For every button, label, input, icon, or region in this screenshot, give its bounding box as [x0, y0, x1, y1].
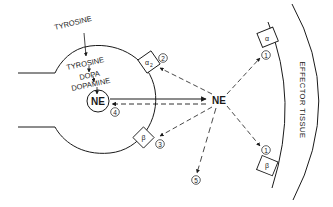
- vesicle-ne-label: NE: [91, 96, 105, 107]
- effector-beta-symbol: β: [265, 162, 269, 170]
- beta-presynaptic-number: 3: [158, 141, 162, 148]
- released-ne-label: NE: [212, 95, 226, 106]
- tyrosine-intracellular-label: TYROSINE: [66, 55, 105, 72]
- alpha2-number: 2: [161, 55, 165, 62]
- diffusion-number: 5: [194, 177, 198, 184]
- effector-alpha-receptor: α: [257, 27, 278, 47]
- effector-beta-number: 1: [264, 147, 268, 154]
- effector-alpha-number: 1: [264, 52, 268, 59]
- beta-presynaptic-receptor: β: [133, 127, 154, 148]
- beta-presynaptic-symbol: β: [141, 134, 145, 142]
- diffusion-arrow: [197, 108, 216, 173]
- tyrosine-uptake-arrow: [84, 33, 86, 56]
- reuptake-number: 4: [113, 109, 117, 116]
- ne-to-effector-alpha-arrow: [227, 58, 260, 94]
- diagram-canvas: TYROSINE TYROSINE DOPA DOPAMINE NE 4 NE …: [0, 0, 333, 207]
- tyrosine-extracellular-label: TYROSINE: [53, 14, 92, 32]
- ne-to-beta-presynaptic-arrow: [160, 107, 212, 136]
- alpha2-symbol: α: [145, 59, 149, 66]
- ne-to-effector-beta-arrow: [227, 106, 260, 146]
- effector-alpha-symbol: α: [265, 35, 269, 42]
- alpha2-subscript: 2: [150, 62, 153, 68]
- effector-beta-receptor: β: [257, 156, 278, 176]
- ne-to-alpha2-arrow: [160, 68, 212, 94]
- effector-tissue-label: EFFECTOR TISSUE: [298, 62, 307, 139]
- alpha2-receptor: α 2: [138, 51, 160, 73]
